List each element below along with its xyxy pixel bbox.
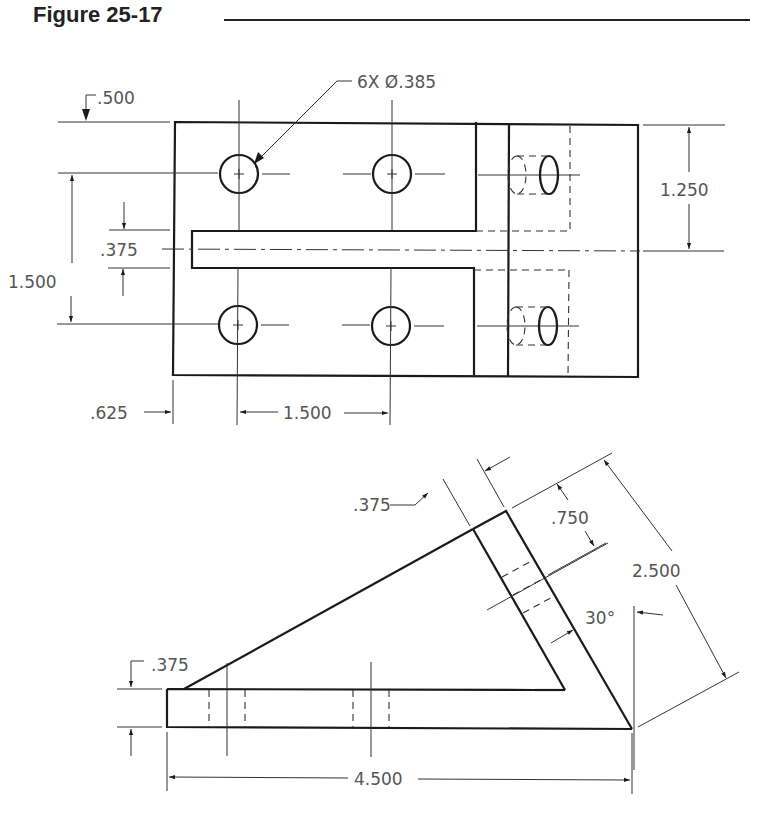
dim-slot-width: .375 <box>100 240 138 260</box>
hole-callout: 6X Ø.385 <box>357 72 436 92</box>
dim-hole-to-centerline: 1.250 <box>660 180 709 200</box>
dim-angle: 30° <box>585 608 615 628</box>
dim-base-thickness: .375 <box>151 655 189 675</box>
dim-edge-to-hole-vertical: .500 <box>97 88 135 108</box>
dim-upright-thickness: .375 <box>353 495 391 515</box>
dim-hole-offset: .750 <box>551 508 589 528</box>
top-view: 6X Ø.385 .500 1.500 .375 1.250 .625 1.50… <box>8 72 725 425</box>
technical-drawing: 6X Ø.385 .500 1.500 .375 1.250 .625 1.50… <box>0 0 782 840</box>
dim-hole-spacing-vertical: 1.500 <box>8 272 57 292</box>
dim-edge-to-hole-horizontal: .625 <box>90 403 128 423</box>
dim-upright-length: 2.500 <box>632 561 681 581</box>
dim-hole-spacing-horizontal: 1.500 <box>283 403 332 423</box>
dim-overall-length: 4.500 <box>354 769 403 789</box>
side-view: .375 .750 2.500 30° .375 4.500 <box>117 453 739 794</box>
